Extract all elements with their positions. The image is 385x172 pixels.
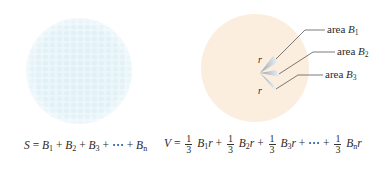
fraction-one-third: 13 — [185, 134, 192, 155]
area-label-b1: area B1 — [327, 23, 359, 37]
volume-formula: V = 13 B1r + 13 B2r + 13 B3r + ⋯ + 13 Bn… — [164, 134, 362, 155]
fraction-one-third: 13 — [269, 134, 276, 155]
surface-area-formula: S = B1 + B2 + B3 + ⋯ + Bn — [24, 140, 147, 153]
subdivided-sphere — [26, 18, 132, 124]
radius-label-top: r — [258, 54, 262, 65]
fraction-one-third: 13 — [227, 134, 234, 155]
radius-label-bottom: r — [258, 85, 262, 96]
area-label-b3: area B3 — [325, 68, 357, 82]
sphere-with-cones — [201, 14, 335, 122]
area-label-b2: area B2 — [337, 45, 369, 59]
fraction-one-third: 13 — [334, 134, 341, 155]
